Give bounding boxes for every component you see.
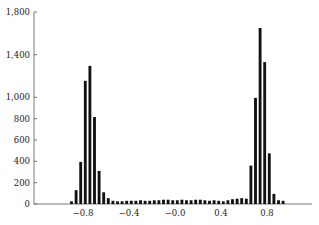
- histogram-bar: [249, 166, 252, 204]
- y-tick-label: 600: [14, 135, 30, 145]
- histogram-bar: [84, 81, 87, 204]
- histogram-bar: [125, 201, 128, 204]
- histogram-bar: [139, 200, 142, 204]
- histogram-bar: [153, 200, 156, 204]
- y-tick-label: 400: [14, 156, 30, 166]
- x-tick-label: −0.4: [119, 208, 140, 218]
- histogram-bar: [107, 198, 110, 204]
- histogram-bar: [88, 66, 91, 204]
- histogram-bar: [185, 200, 188, 204]
- histogram-bar: [263, 62, 266, 204]
- histogram-bar: [272, 194, 275, 204]
- x-axis: −0.8−0.4−0.00.40.8: [34, 204, 312, 218]
- histogram-bar: [231, 199, 234, 204]
- histogram-chart: 02004006008001,0001,4001,800 −0.8−0.4−0.…: [0, 0, 319, 225]
- histogram-bar: [102, 192, 105, 204]
- histogram-bar: [254, 98, 257, 204]
- histogram-bar: [180, 200, 183, 204]
- histogram-bar: [93, 117, 96, 204]
- histogram-bar: [121, 201, 124, 204]
- x-tick-label: 0.4: [214, 208, 228, 218]
- histogram-bar: [79, 162, 82, 204]
- histogram-bar: [98, 171, 101, 204]
- histogram-bar: [134, 201, 137, 204]
- histogram-bar: [190, 200, 193, 204]
- histogram-bar: [167, 200, 170, 204]
- histogram-bar: [162, 200, 165, 204]
- histogram-bar: [199, 200, 202, 204]
- y-tick-label: 0: [25, 199, 30, 209]
- histogram-bar: [157, 200, 160, 204]
- histogram-bar: [116, 201, 119, 204]
- histogram-bar: [148, 201, 151, 204]
- histogram-bar: [194, 200, 197, 204]
- histogram-bar: [176, 200, 179, 204]
- y-tick-label: 1,000: [6, 92, 30, 102]
- y-tick-label: 800: [14, 114, 30, 124]
- y-tick-label: 1,400: [6, 50, 30, 60]
- histogram-bar: [171, 200, 174, 204]
- histogram-bar: [259, 28, 262, 204]
- histogram-bar: [75, 190, 78, 204]
- histogram-bar: [268, 153, 271, 204]
- histogram-bar: [111, 201, 114, 204]
- histogram-bar: [70, 201, 73, 204]
- x-tick-label: −0.0: [165, 208, 186, 218]
- y-tick-label: 1,800: [6, 7, 30, 17]
- histogram-bar: [222, 201, 225, 204]
- histogram-bar: [208, 201, 211, 204]
- y-axis: 02004006008001,0001,4001,800: [6, 7, 37, 209]
- histogram-bar: [226, 200, 229, 204]
- x-tick-label: −0.8: [73, 208, 94, 218]
- histogram-bar: [277, 200, 280, 204]
- histogram-bar: [213, 200, 216, 204]
- histogram-bar: [203, 200, 206, 204]
- y-tick-label: 200: [14, 178, 30, 188]
- histogram-bar: [144, 201, 147, 204]
- histogram-bar: [245, 199, 248, 204]
- histogram-bar: [236, 199, 239, 204]
- histogram-bars: [70, 28, 284, 204]
- histogram-bar: [282, 201, 285, 204]
- histogram-bar: [240, 198, 243, 204]
- histogram-bar: [130, 201, 133, 204]
- x-tick-label: 0.8: [260, 208, 274, 218]
- histogram-bar: [217, 201, 220, 204]
